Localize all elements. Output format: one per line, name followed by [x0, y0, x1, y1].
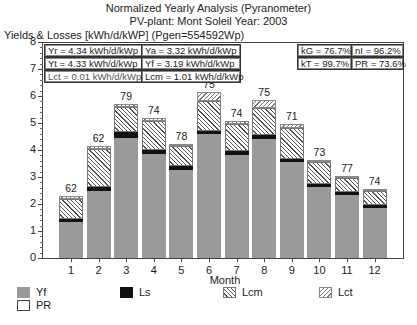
bar-segment-lcm	[335, 178, 359, 192]
y-minor-tick	[40, 53, 43, 54]
y-minor-tick	[40, 236, 43, 237]
bar-segment-lct	[197, 92, 221, 100]
bar-segment-yf	[363, 208, 387, 258]
legend-pr-label: PR	[36, 299, 51, 311]
legend-ls-label: Ls	[139, 286, 151, 298]
x-tick-mark	[99, 258, 100, 262]
legend-ls: Ls	[120, 286, 151, 298]
bar-segment-lct	[142, 118, 166, 121]
x-tick-mark	[292, 258, 293, 262]
bar-segment-ls	[225, 151, 249, 155]
bar-segment-lct	[87, 146, 111, 149]
y-minor-tick	[40, 64, 43, 65]
y-minor-tick	[40, 188, 43, 189]
bar-segment-ls	[307, 184, 331, 187]
pr-value-label: 74	[360, 175, 390, 187]
bar-segment-ls	[59, 219, 83, 222]
bar-segment-yf	[280, 162, 304, 258]
info-box-pr: PR = 73.6%	[351, 57, 404, 70]
x-axis-label: Month	[200, 274, 250, 286]
legend-lcm-label: Lcm	[242, 286, 263, 298]
y-minor-tick	[40, 107, 43, 108]
y-tick-label: 4	[24, 143, 36, 155]
legend-lct-label: Lct	[338, 286, 353, 298]
bar-segment-yf	[59, 222, 83, 258]
y-minor-tick	[40, 182, 43, 183]
bar-segment-ls	[169, 166, 193, 170]
bar-segment-yf	[169, 170, 193, 258]
y-minor-tick	[40, 253, 43, 254]
y-minor-tick	[40, 139, 43, 140]
y-tick-label: 1	[24, 224, 36, 236]
y-tick-mark	[38, 123, 43, 124]
y-tick-mark	[38, 177, 43, 178]
x-tick-mark	[126, 258, 127, 262]
bar-segment-lcm	[252, 108, 276, 135]
bar-segment-ls	[197, 131, 221, 135]
y-tick-label: 8	[24, 35, 36, 47]
bar-segment-yf	[225, 155, 249, 258]
bar-segment-ls	[335, 192, 359, 195]
bar-segment-lct	[335, 176, 359, 178]
bar-segment-lcm	[169, 146, 193, 166]
y-tick-label: 2	[24, 197, 36, 209]
y-tick-mark	[38, 258, 43, 259]
info-box-ni: nI = 96.2%	[351, 44, 404, 57]
bar-segment-yf	[252, 139, 276, 258]
y-minor-tick	[40, 101, 43, 102]
bar-segment-lct	[363, 189, 387, 191]
x-tick-label: 9	[282, 264, 302, 276]
y-tick-mark	[38, 204, 43, 205]
x-tick-mark	[347, 258, 348, 262]
pr-value-label: 74	[139, 104, 169, 116]
bar-segment-lct	[252, 100, 276, 109]
legend-yf-label: Yf	[36, 286, 46, 298]
x-tick-label: 3	[116, 264, 136, 276]
legend-pr: PR	[17, 299, 51, 311]
pr-value-label: 71	[277, 110, 307, 122]
bar-segment-lcm	[87, 149, 111, 187]
x-tick-mark	[71, 258, 72, 262]
y-minor-tick	[40, 199, 43, 200]
y-minor-tick	[40, 226, 43, 227]
pr-value-label: 73	[304, 146, 334, 158]
x-tick-label: 11	[337, 264, 357, 276]
x-tick-label: 1	[61, 264, 81, 276]
y-minor-tick	[40, 220, 43, 221]
y-tick-mark	[38, 231, 43, 232]
lct-swatch-icon	[319, 287, 332, 298]
y-tick-label: 0	[24, 251, 36, 263]
y-tick-mark	[38, 150, 43, 151]
bar-segment-lcm	[197, 101, 221, 131]
x-tick-mark	[319, 258, 320, 262]
bar-segment-ls	[280, 159, 304, 162]
info-box-lct: Lct = 0.01 kWh/d/kWp	[44, 70, 148, 83]
y-minor-tick	[40, 215, 43, 216]
info-box-ya: Ya = 3.32 kWh/d/kWp	[141, 44, 241, 57]
y-minor-tick	[40, 161, 43, 162]
bar-segment-ls	[252, 135, 276, 139]
info-box-lcm: Lcm = 1.01 kWh/d/kWp	[141, 70, 241, 83]
bar-segment-lcm	[59, 199, 83, 219]
y-minor-tick	[40, 247, 43, 248]
legend-lcm: Lcm	[223, 286, 263, 298]
x-tick-mark	[375, 258, 376, 262]
info-box-kt: kT = 99.7%	[297, 57, 352, 70]
y-minor-tick	[40, 58, 43, 59]
y-tick-label: 7	[24, 62, 36, 74]
y-minor-tick	[40, 242, 43, 243]
pr-value-label: 75	[249, 86, 279, 98]
x-tick-mark	[237, 258, 238, 262]
x-tick-mark	[209, 258, 210, 262]
bar-segment-lct	[114, 104, 138, 107]
pr-value-label: 74	[222, 107, 252, 119]
bar-segment-lcm	[363, 191, 387, 205]
bar-segment-lcm	[225, 124, 249, 152]
x-tick-label: 10	[309, 264, 329, 276]
y-tick-label: 3	[24, 170, 36, 182]
bar-segment-lct	[169, 144, 193, 146]
bar-segment-yf	[142, 154, 166, 258]
x-tick-label: 12	[365, 264, 385, 276]
bar-segment-lcm	[280, 128, 304, 160]
y-minor-tick	[40, 209, 43, 210]
